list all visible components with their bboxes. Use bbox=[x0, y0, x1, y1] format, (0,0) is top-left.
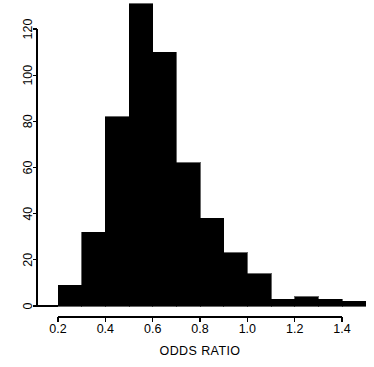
y-axis-tick-label: 40 bbox=[21, 207, 35, 221]
histogram-bar bbox=[247, 274, 271, 306]
histogram-bar bbox=[318, 299, 342, 306]
histogram-bar bbox=[153, 52, 177, 306]
histogram-figure: 020406080100120 0.20.40.60.81.01.21.4 OD… bbox=[0, 0, 374, 367]
histogram-bar bbox=[200, 218, 224, 306]
x-axis-tick-label: 1.0 bbox=[239, 322, 256, 336]
y-axis-tick-label: 20 bbox=[21, 253, 35, 267]
y-axis-tick-label: 100 bbox=[21, 65, 35, 86]
histogram-bar bbox=[129, 4, 153, 306]
x-axis-title: ODDS RATIO bbox=[160, 344, 241, 358]
x-axis-tick-label: 0.6 bbox=[144, 322, 161, 336]
odds-ratio-histogram-plot: 020406080100120 0.20.40.60.81.01.21.4 OD… bbox=[0, 0, 374, 367]
histogram-bar bbox=[105, 117, 129, 306]
y-axis-tick-label: 80 bbox=[21, 114, 35, 128]
x-axis-tick-label: 0.4 bbox=[97, 322, 114, 336]
histogram-bar bbox=[271, 299, 295, 306]
x-axis-tick-label: 1.4 bbox=[333, 322, 350, 336]
x-axis-tick-label: 0.2 bbox=[49, 322, 66, 336]
y-axis-tick-label: 120 bbox=[21, 19, 35, 40]
x-axis-tick-label: 0.8 bbox=[191, 322, 208, 336]
histogram-bar bbox=[224, 253, 248, 306]
y-axis-tick-label: 0 bbox=[21, 302, 35, 309]
histogram-bar bbox=[58, 285, 82, 306]
histogram-bar bbox=[82, 232, 106, 306]
y-axis-tick-label: 60 bbox=[21, 161, 35, 175]
histogram-bar bbox=[176, 163, 200, 306]
x-axis-tick-label: 1.2 bbox=[286, 322, 303, 336]
histogram-bar bbox=[295, 297, 319, 306]
histogram-bar bbox=[342, 301, 366, 306]
